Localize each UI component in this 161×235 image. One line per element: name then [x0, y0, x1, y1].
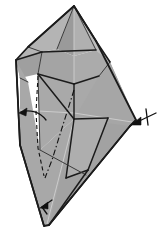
crease-notch-top: [74, 118, 108, 119]
origami-diagram-root: Origami folding step diagram: [0, 0, 161, 235]
origami-figure: Origami folding step diagram: [0, 0, 161, 235]
